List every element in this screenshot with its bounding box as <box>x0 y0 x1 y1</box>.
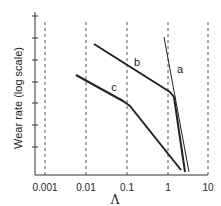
x-tick-label: 1 <box>165 182 171 193</box>
x-tick-label: 0.1 <box>120 182 134 193</box>
x-tick-label: 0.01 <box>76 182 96 193</box>
y-axis-title: Wear rate (log scale) <box>12 47 24 149</box>
x-tick-label: 0.001 <box>32 182 57 193</box>
series-a-line <box>164 37 189 172</box>
x-tick-label: 10 <box>202 182 214 193</box>
wear-rate-chart: 0.001 0.01 0.1 1 10 Λ Wear rate (log sca… <box>0 0 221 206</box>
series-a-label: a <box>177 63 184 75</box>
series-b-label: b <box>134 56 140 68</box>
series-c-label: c <box>111 81 117 93</box>
gridlines <box>45 22 208 175</box>
x-axis-title: Λ <box>110 193 120 206</box>
series-lines <box>76 37 189 172</box>
x-tick-labels: 0.001 0.01 0.1 1 10 <box>32 182 214 193</box>
